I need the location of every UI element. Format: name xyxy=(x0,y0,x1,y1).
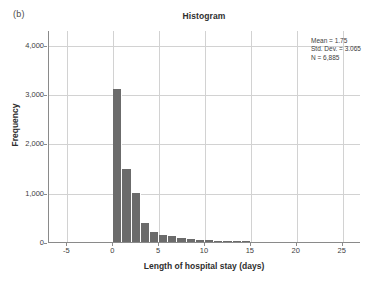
histogram-bar xyxy=(242,241,251,242)
x-tick-label: 5 xyxy=(156,246,160,255)
x-tick-label: 10 xyxy=(200,246,208,255)
histogram-bar xyxy=(196,240,205,242)
histogram-bar xyxy=(132,193,141,242)
x-axis-title: Length of hospital stay (days) xyxy=(48,261,360,271)
x-tick-label: 25 xyxy=(337,246,345,255)
stat-std-dev: Std. Dev. = 3.065 xyxy=(311,45,361,53)
plot-area xyxy=(48,31,360,243)
x-axis-tick-labels: -50510152025 xyxy=(48,246,360,260)
y-axis-tick-marks xyxy=(0,31,48,243)
panel-label: (b) xyxy=(13,9,25,19)
x-tick-label: 0 xyxy=(110,246,114,255)
histogram-bar xyxy=(177,238,186,242)
histogram-figure: (b) Histogram Frequency 4,0003,0002,0001… xyxy=(0,0,389,281)
y-tick-mark xyxy=(44,194,47,195)
histogram-bar xyxy=(205,240,214,242)
y-tick-mark xyxy=(44,46,47,47)
x-tick-label: 15 xyxy=(246,246,254,255)
histogram-bar xyxy=(159,235,168,242)
stat-mean: Mean = 1.75 xyxy=(311,37,361,45)
histogram-bar xyxy=(150,232,159,242)
histogram-bar xyxy=(214,241,223,242)
y-tick-mark xyxy=(44,144,47,145)
histogram-bar xyxy=(187,239,196,242)
stat-n: N = 6,885 xyxy=(311,54,361,62)
chart-title: Histogram xyxy=(48,11,360,21)
statistics-annotation: Mean = 1.75 Std. Dev. = 3.065 N = 6,885 xyxy=(311,37,361,62)
histogram-bar xyxy=(233,241,242,242)
histogram-bar xyxy=(113,89,122,242)
y-tick-mark xyxy=(44,243,47,244)
x-tick-label: -5 xyxy=(63,246,70,255)
histogram-bar xyxy=(141,223,150,242)
y-tick-mark xyxy=(44,95,47,96)
histogram-bars xyxy=(49,31,360,242)
histogram-bar xyxy=(122,169,131,242)
histogram-bar xyxy=(223,241,232,242)
histogram-bar xyxy=(168,236,177,242)
x-tick-label: 20 xyxy=(292,246,300,255)
